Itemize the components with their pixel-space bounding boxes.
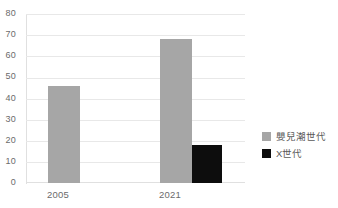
legend-item-boomer[interactable]: 嬰兒潮世代 <box>262 132 326 142</box>
legend-swatch-icon-genx <box>262 149 271 158</box>
bar-2021-genx[interactable] <box>192 145 222 183</box>
y-axis-tick-label: 10 <box>6 156 16 166</box>
y-axis-tick-label: 70 <box>6 29 16 39</box>
y-axis-tick-label: 60 <box>6 50 16 60</box>
legend-label-genx: X世代 <box>276 149 302 159</box>
legend-label-boomer: 嬰兒潮世代 <box>276 132 326 142</box>
gridline-70 <box>26 35 245 36</box>
legend: 嬰兒潮世代 X世代 <box>262 132 326 158</box>
y-axis-tick-label: 20 <box>6 135 16 145</box>
x-axis-label-2021: 2021 <box>140 189 200 200</box>
y-axis-tick-label: 40 <box>6 93 16 103</box>
y-axis-tick-label: 30 <box>6 114 16 124</box>
gridline-50 <box>26 78 245 79</box>
gridline-60 <box>26 56 245 57</box>
legend-swatch-icon-boomer <box>262 132 271 141</box>
legend-item-genx[interactable]: X世代 <box>262 149 326 159</box>
bar-chart: 80 70 60 50 40 30 20 10 0 2005 2021 嬰兒潮世… <box>0 0 338 208</box>
y-axis-tick-label: 50 <box>6 71 16 81</box>
x-axis-label-2005: 2005 <box>28 189 88 200</box>
bar-2021-boomer[interactable] <box>160 39 192 183</box>
gridline-80 <box>26 14 245 15</box>
y-axis-tick-label: 0 <box>11 177 16 187</box>
bar-2005-boomer[interactable] <box>48 86 80 183</box>
y-axis-tick-label: 80 <box>6 8 16 18</box>
plot-area <box>26 14 245 183</box>
